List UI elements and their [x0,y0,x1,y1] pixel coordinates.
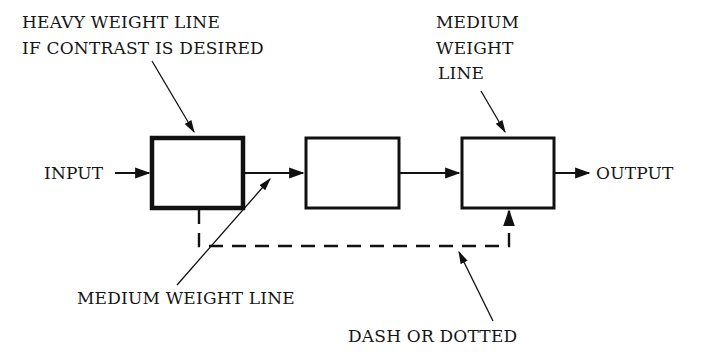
block-1-heavy [152,138,243,208]
heavy-line-caption-2: IF CONTRAST IS DESIRED [22,38,264,59]
block-2 [306,138,399,208]
output-label: OUTPUT [596,163,674,184]
callout-medium-bottom-leader [177,179,270,285]
callout-dashed-leader [459,252,493,321]
dashed-feedback-line [199,210,509,246]
callout-heavy-leader [152,61,194,132]
dashed-caption: DASH OR DOTTED [348,326,517,347]
heavy-line-caption-1: HEAVY WEIGHT LINE [22,12,220,33]
medium-bottom-caption: MEDIUM WEIGHT LINE [77,288,295,309]
callout-medium-top-leader [481,91,505,132]
input-label: INPUT [44,163,103,184]
medium-top-caption-3: LINE [438,63,484,84]
medium-top-caption-1: MEDIUM [436,12,519,33]
block-3 [462,138,554,208]
medium-top-caption-2: WEIGHT [436,38,514,59]
